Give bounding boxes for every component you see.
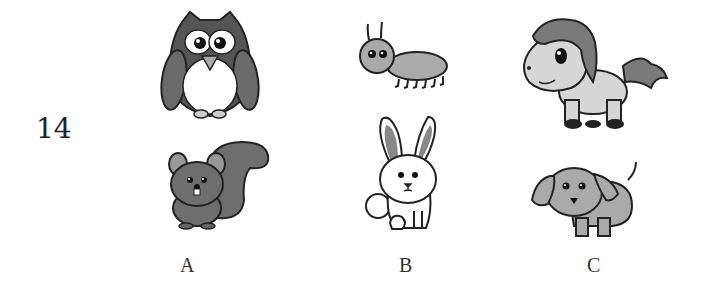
option-label-c: C bbox=[587, 254, 600, 277]
rabbit-picture bbox=[362, 113, 447, 238]
owl-picture bbox=[160, 8, 260, 123]
pony-picture bbox=[515, 12, 675, 132]
question-number: 14 bbox=[36, 112, 72, 145]
puppy-picture bbox=[528, 158, 648, 243]
ant-picture bbox=[355, 22, 450, 92]
option-label-b: B bbox=[399, 254, 412, 277]
option-label-a: A bbox=[180, 254, 194, 277]
squirrel-picture bbox=[162, 138, 272, 233]
